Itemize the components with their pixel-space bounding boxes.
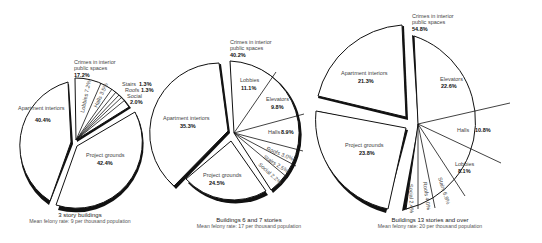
annotation-value: 54.8% (412, 26, 428, 32)
apartment-value: 21.3% (358, 78, 374, 84)
elevators-value: 9.8% (271, 104, 284, 110)
annotation-value: 40.2% (230, 52, 246, 58)
social-label: Social 2.4% (408, 184, 415, 213)
annotation-value: 17.2% (74, 72, 90, 78)
grounds-value: 42.4% (97, 160, 113, 166)
pie-chart-13-stories: Crimes in interior public spaces 54.8% A… (316, 13, 510, 229)
apartment-value: 35.3% (180, 123, 196, 129)
annotation-line2: public spaces (74, 65, 108, 71)
social-value: 2.0% (130, 99, 143, 105)
chart-subtitle: Mean felony rate: 17 per thousand popula… (197, 223, 302, 229)
apartment-label: Apartment interiors (163, 115, 210, 121)
grounds-label: Project grounds (86, 152, 125, 158)
pie-charts-figure: Crimes in interior public spaces 17.2% A… (0, 0, 542, 243)
halls-value: 10.8% (475, 127, 491, 133)
lobbies-label: Lobbies (240, 77, 260, 83)
halls-value: 8.9% (281, 129, 294, 135)
halls-label: Halls (457, 127, 469, 133)
chart-subtitle: Mean felony rate: 20 per thousand popula… (378, 223, 483, 229)
chart-subtitle: Mean felony rate: 9 per thousand populat… (29, 218, 131, 224)
pie-chart-3-story: Crimes in interior public spaces 17.2% A… (18, 59, 154, 224)
grounds-value: 24.5% (209, 180, 225, 186)
lobbies-value: 8.1% (458, 168, 471, 174)
slice-project-grounds (316, 111, 406, 209)
lobbies-value: 11.1% (241, 85, 256, 91)
annotation-line2: public spaces (412, 19, 446, 25)
grounds-label: Project grounds (203, 172, 242, 178)
elevators-value: 22.6% (441, 83, 457, 89)
apartment-label: Apartment interiors (18, 105, 65, 111)
apartment-label: Apartment interiors (341, 70, 388, 76)
grounds-value: 23.8% (359, 150, 375, 156)
annotation-line2: public spaces (230, 45, 264, 51)
lobbies-label: Lobbies (455, 161, 475, 167)
apartment-value: 40.4% (35, 117, 51, 123)
pie-chart-6-7-stories: Crimes in interior public spaces 40.2% A… (150, 39, 304, 229)
grounds-label: Project grounds (345, 142, 384, 148)
interior-public-spaces-wedge (402, 35, 510, 211)
elevators-label: Elevators (266, 96, 289, 102)
elevators-label: Elevators (440, 76, 463, 82)
roofs-value: 1.3% (141, 87, 154, 93)
halls-label: Halls (268, 129, 280, 135)
